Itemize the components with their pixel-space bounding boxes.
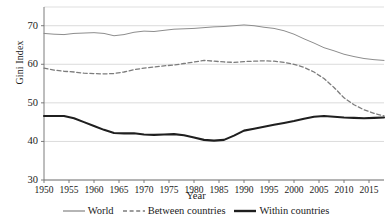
legend-label: World <box>88 205 114 216</box>
y-tick-label: 70 <box>12 21 38 31</box>
legend-item: Between countries <box>123 205 226 216</box>
legend-item: Within countries <box>234 205 329 216</box>
series-line-world <box>44 25 384 60</box>
legend-label: Between countries <box>148 205 226 216</box>
gini-index-line-chart: Gini Index Year 3040506070 1950195519601… <box>0 0 392 223</box>
legend-item: World <box>63 205 114 216</box>
y-tick-label: 40 <box>12 136 38 146</box>
line-dashed-icon <box>123 208 145 214</box>
y-tick-label: 60 <box>12 59 38 69</box>
chart-legend: WorldBetween countriesWithin countries <box>0 205 392 216</box>
line-solid-thin-icon <box>63 208 85 214</box>
legend-label: Within countries <box>259 205 329 216</box>
series-line-between-countries <box>44 60 384 116</box>
x-tick-label: 2015 <box>349 185 389 195</box>
series-line-within-countries <box>44 116 384 141</box>
line-solid-thick-icon <box>234 208 256 214</box>
y-tick-label: 50 <box>12 98 38 108</box>
y-tick-label: 30 <box>12 175 38 185</box>
